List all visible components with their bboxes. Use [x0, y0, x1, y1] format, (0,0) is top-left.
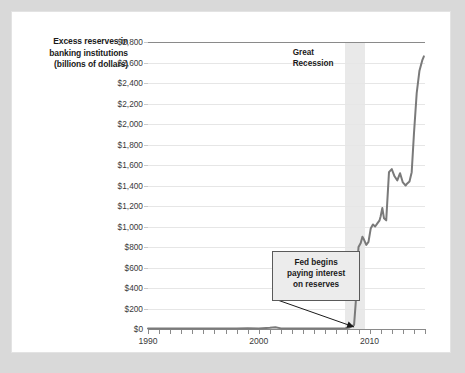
y-tick-label: $2,600 [118, 58, 143, 68]
y-tick-label: $1,800 [118, 140, 143, 150]
y-tick-label: $600 [125, 263, 143, 273]
y-tick-label: $200 [125, 304, 143, 314]
arrow-head-icon [346, 322, 354, 328]
y-axis-title: Excess reserves in banking institutions … [22, 36, 128, 71]
y-tick-label: $1,000 [118, 222, 143, 232]
fed-interest-callout-box: Fed begins paying interest on reserves [272, 251, 360, 301]
x-tick-mark [425, 329, 426, 334]
callout-arrow-icon [148, 42, 425, 349]
y-tick-label: $1,200 [118, 201, 143, 211]
recession-annotation-label: Great Recession [293, 48, 334, 69]
y-tick-label: $2,400 [118, 78, 143, 88]
y-tick-label: $400 [125, 283, 143, 293]
y-tick-label: $2,800 [118, 37, 143, 47]
y-tick-label: $2,200 [118, 99, 143, 109]
chart-figure-card: Excess reserves in banking institutions … [12, 12, 450, 352]
y-tick-label: $1,400 [118, 181, 143, 191]
y-tick-label: $1,600 [118, 160, 143, 170]
y-tick-label: $0 [134, 324, 143, 334]
y-tick-label: $2,000 [118, 119, 143, 129]
arrow-shaft [272, 298, 354, 327]
y-tick-label: $800 [125, 242, 143, 252]
